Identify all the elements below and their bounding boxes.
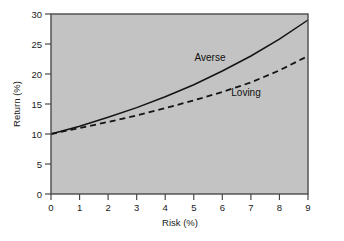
y-tick-label: 15 [31,99,42,110]
x-tick-label: 6 [220,202,225,213]
x-axis-title: Risk (%) [162,217,198,228]
x-tick-label: 4 [163,202,168,213]
y-axis-ticks [45,14,51,194]
y-tick-label: 20 [31,69,42,80]
y-axis-title: Return (%) [11,81,22,127]
x-axis-ticks [51,194,308,200]
y-tick-label: 10 [31,129,42,140]
x-tick-label: 1 [77,202,82,213]
x-tick-label: 0 [48,202,53,213]
x-tick-label: 5 [191,202,196,213]
y-tick-label: 5 [37,159,42,170]
y-axis-tick-labels: 30 25 20 15 10 5 0 [31,9,42,200]
y-tick-label: 0 [37,189,42,200]
series-annotation-loving: Loving [231,87,260,98]
y-tick-label: 30 [31,9,42,20]
y-tick-label: 25 [31,39,42,50]
x-tick-label: 9 [305,202,310,213]
risk-return-chart: 30 25 20 15 10 5 0 0 1 2 3 4 5 [0,0,344,241]
x-tick-label: 8 [277,202,282,213]
x-tick-label: 3 [134,202,139,213]
x-tick-label: 2 [105,202,110,213]
x-axis-tick-labels: 0 1 2 3 4 5 6 7 8 9 [48,202,310,213]
x-tick-label: 7 [248,202,253,213]
chart-page: 30 25 20 15 10 5 0 0 1 2 3 4 5 [0,0,344,241]
series-annotation-averse: Averse [195,52,226,63]
